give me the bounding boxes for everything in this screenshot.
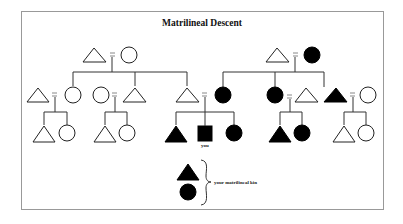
female-circle-icon bbox=[121, 47, 137, 63]
female-circle-icon bbox=[358, 125, 374, 141]
female-circle-icon bbox=[360, 87, 376, 103]
matrilineal-descent-diagram: Matrilineal Descent bbox=[0, 0, 403, 224]
ego-label: you bbox=[201, 143, 209, 148]
female-circle-icon bbox=[59, 125, 75, 141]
female-circle-icon bbox=[65, 87, 81, 103]
diagram-frame bbox=[22, 12, 384, 210]
legend-filled-circle-icon bbox=[180, 184, 196, 200]
legend-label: your matrilineal kin bbox=[214, 180, 257, 185]
female-filled-circle-icon bbox=[304, 47, 320, 63]
female-filled-circle-icon bbox=[215, 87, 231, 103]
ego-filled-square-icon bbox=[198, 126, 212, 141]
female-circle-icon bbox=[119, 125, 135, 141]
female-filled-circle-icon bbox=[267, 87, 283, 103]
female-circle-icon bbox=[93, 87, 109, 103]
female-filled-circle-icon bbox=[226, 125, 242, 141]
female-filled-circle-icon bbox=[294, 125, 310, 141]
diagram-title: Matrilineal Descent bbox=[162, 18, 243, 28]
